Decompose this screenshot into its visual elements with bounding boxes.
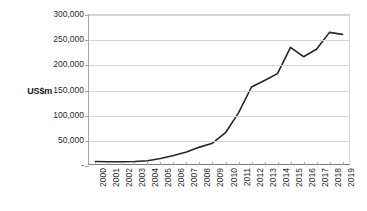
x-axis-tick-mark: [343, 162, 344, 165]
line-chart: US$m -50,000100,000150,000200,000250,000…: [0, 0, 367, 211]
x-axis-tick-label: 2008: [203, 168, 212, 187]
gridline: [89, 141, 349, 142]
x-axis-tick-mark: [173, 162, 174, 165]
x-axis-tick-label: 2012: [256, 168, 265, 187]
y-axis-tick-mark: [85, 40, 89, 41]
x-axis-tick-mark: [121, 162, 122, 165]
y-axis-tick-label: 250,000: [53, 35, 84, 44]
x-axis-tick-mark: [304, 162, 305, 165]
y-axis-tick-label: 150,000: [53, 85, 84, 94]
x-axis-tick-label: 2017: [321, 168, 330, 187]
y-axis-tick-labels: -50,000100,000150,000200,000250,000300,0…: [30, 0, 84, 211]
x-axis-tick-label: 2018: [334, 168, 343, 187]
x-axis-tick-label: 2011: [243, 168, 252, 186]
x-axis-tick-label: 2001: [112, 168, 121, 187]
x-axis-tick-mark: [199, 162, 200, 165]
y-axis-tick-label: 50,000: [58, 136, 84, 145]
x-axis-tick-label: 2019: [347, 168, 356, 187]
x-axis-tick-mark: [239, 162, 240, 165]
x-axis-tick-mark: [291, 162, 292, 165]
x-axis-tick-mark: [186, 162, 187, 165]
x-axis-tick-mark: [212, 162, 213, 165]
y-axis-tick-mark: [85, 65, 89, 66]
x-axis-tick-mark: [147, 162, 148, 165]
y-axis-tick-mark: [85, 116, 89, 117]
y-axis-tick-mark: [85, 141, 89, 142]
x-axis-tick-label: 2006: [177, 168, 186, 187]
gridline: [89, 116, 349, 117]
plot-area: [88, 14, 350, 165]
gridline: [89, 40, 349, 41]
y-axis-tick-label: 300,000: [53, 10, 84, 19]
x-axis-tick-label: 2010: [230, 168, 239, 187]
x-axis-tick-label: 2000: [99, 168, 108, 187]
y-axis-tick-label: 200,000: [53, 60, 84, 69]
x-axis-tick-mark: [330, 162, 331, 165]
x-axis-tick-mark: [108, 162, 109, 165]
x-axis-tick-label: 2014: [282, 168, 291, 187]
x-axis-tick-mark: [95, 162, 96, 165]
x-axis-tick-label: 2007: [190, 168, 199, 187]
x-axis-tick-label: 2016: [308, 168, 317, 187]
x-axis-tick-label: 2003: [138, 168, 147, 187]
gridline: [89, 65, 349, 66]
x-axis-tick-mark: [226, 162, 227, 165]
x-axis-tick-mark: [160, 162, 161, 165]
x-axis-tick-mark: [317, 162, 318, 165]
x-axis-tick-mark: [278, 162, 279, 165]
y-axis-tick-label: -: [81, 161, 84, 170]
x-axis-tick-label: 2009: [216, 168, 225, 187]
x-axis-tick-label: 2013: [269, 168, 278, 187]
x-axis-tick-label: 2015: [295, 168, 304, 187]
x-axis-tick-label: 2002: [125, 168, 134, 187]
y-axis-tick-mark: [85, 91, 89, 92]
x-axis-tick-mark: [265, 162, 266, 165]
y-axis-tick-mark: [85, 15, 89, 16]
x-axis-tick-label: 2004: [151, 168, 160, 187]
x-axis-tick-label: 2005: [164, 168, 173, 187]
y-axis-tick-label: 100,000: [53, 110, 84, 119]
gridline: [89, 91, 349, 92]
x-axis-tick-mark: [252, 162, 253, 165]
gridline: [89, 15, 349, 16]
x-axis-tick-labels: 2000200120022003200420052006200720082009…: [88, 166, 350, 211]
x-axis-tick-mark: [134, 162, 135, 165]
